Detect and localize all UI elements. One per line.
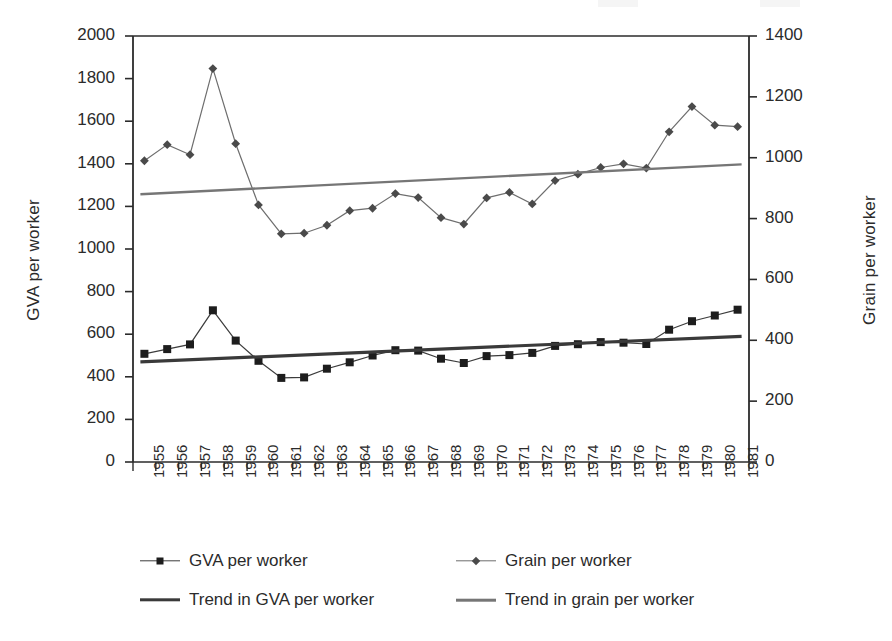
legend-marker-trend-grain-icon [456, 593, 496, 607]
legend-label-grain-per-worker: Grain per worker [505, 551, 632, 571]
chart-figure: GVA per worker Grain per worker 02004006… [0, 0, 892, 641]
chart-legend: GVA per worker Grain per worker Trend in… [133, 551, 773, 637]
legend-marker-grain-per-worker-icon [456, 554, 496, 568]
legend-item-grain-per-worker: Grain per worker [456, 551, 632, 571]
legend-item-trend-gva-per-worker: Trend in GVA per worker [140, 590, 374, 610]
plot-area [0, 0, 892, 641]
legend-label-trend-gva-per-worker: Trend in GVA per worker [189, 590, 374, 610]
legend-marker-trend-gva-icon [140, 593, 180, 607]
legend-label-gva-per-worker: GVA per worker [189, 551, 308, 571]
legend-item-trend-grain-per-worker: Trend in grain per worker [456, 590, 694, 610]
legend-item-gva-per-worker: GVA per worker [140, 551, 308, 571]
legend-marker-gva-per-worker-icon [140, 554, 180, 568]
legend-label-trend-grain-per-worker: Trend in grain per worker [505, 590, 694, 610]
